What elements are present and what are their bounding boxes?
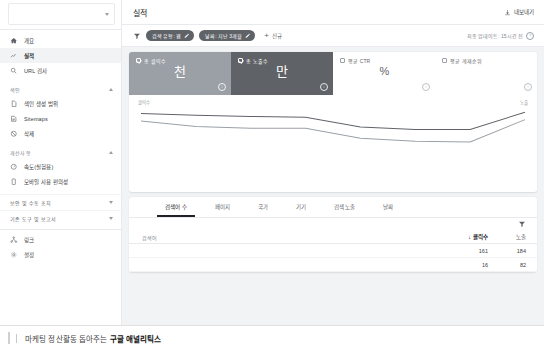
filter-chip-search-type[interactable]: 검색 유형: 웹 xyxy=(146,30,194,41)
metric-header: 총 클릭수 xyxy=(136,57,225,64)
sidebar-item-removals[interactable]: 삭제 xyxy=(0,126,121,141)
filter-funnel-icon[interactable] xyxy=(132,31,141,40)
sidebar-group-legacy-tools[interactable]: 기존 도구 및 보고서 xyxy=(0,210,121,226)
gear-icon xyxy=(10,251,18,259)
checkbox-unchecked-icon[interactable] xyxy=(442,58,447,63)
sidebar-divider xyxy=(0,29,121,30)
chart-y-axis-label-left: 클릭수 xyxy=(138,99,150,105)
metric-card-average-ctr[interactable]: 평균 CTR % i xyxy=(333,52,435,95)
sidebar-item-overview[interactable]: 개요 xyxy=(0,33,121,48)
filter-bar: 검색 유형: 웹 날짜: 지난 3개월 + 신규 최종 업데이트: 15시간 전… xyxy=(122,25,544,47)
tab-label: 검색어 수 xyxy=(165,203,187,211)
sidebar-item-label: 삭제 xyxy=(24,130,34,138)
add-filter-button[interactable]: + 신규 xyxy=(264,32,282,40)
filter-funnel-icon[interactable] xyxy=(518,220,526,229)
sidebar-item-label: 링크 xyxy=(24,236,34,244)
chevron-down-icon xyxy=(109,201,113,204)
tab-label: 날짜 xyxy=(383,203,393,211)
download-icon xyxy=(504,9,511,16)
main-area: 실적 내보내기 검색 유형: 웹 날짜: 지난 3개월 xyxy=(122,0,544,325)
tab-countries[interactable]: 국가 xyxy=(244,197,282,217)
sidebar-group-label: 기존 도구 및 보고서 xyxy=(10,215,56,222)
cell-clicks: 161 xyxy=(438,248,488,254)
footer-caption-emphasis: 구글 애널리틱스 xyxy=(110,335,162,344)
last-updated: 최종 업데이트: 15시간 전 ? xyxy=(467,32,534,40)
metric-label: 평균 게재순위 xyxy=(450,57,482,64)
tab-label: 국가 xyxy=(258,203,268,211)
info-icon[interactable]: ? xyxy=(526,32,534,40)
tab-queries[interactable]: 검색어 수 xyxy=(151,197,201,217)
sidebar-item-settings[interactable]: 설정 xyxy=(0,247,121,262)
column-header-clicks-label: 클릭수 xyxy=(473,233,488,241)
table-row[interactable]: 16 82 xyxy=(129,258,537,272)
content-scroll: 총 클릭수 천 i 총 노출수 만 i xyxy=(122,47,544,325)
sidebar-group-label: 색인 xyxy=(10,86,20,93)
sidebar-item-mobile-usability[interactable]: 모바일 사용 편의성 xyxy=(0,174,121,189)
cell-impressions: 184 xyxy=(488,248,526,254)
metric-card-total-clicks[interactable]: 총 클릭수 천 i xyxy=(129,52,231,95)
property-selector[interactable] xyxy=(8,3,115,25)
add-filter-label: 신규 xyxy=(272,32,282,40)
page-title: 실적 xyxy=(133,7,147,18)
column-header-query[interactable]: 검색어 xyxy=(142,234,438,241)
sidebar-group-index[interactable]: 색인 xyxy=(0,82,121,96)
sidebar-group-security[interactable]: 보안 및 수동 조치 xyxy=(0,194,121,210)
column-header-clicks[interactable]: ↓ 클릭수 xyxy=(438,233,488,241)
page-coverage-icon xyxy=(10,100,18,108)
cell-impressions: 82 xyxy=(488,262,526,268)
sidebar-group-enhancements[interactable]: 개선사항 xyxy=(0,145,121,159)
cell-clicks: 16 xyxy=(438,262,488,268)
mobile-device-icon xyxy=(10,178,18,186)
sidebar-item-url-inspection[interactable]: URL 검사 xyxy=(0,63,121,78)
info-icon[interactable]: i xyxy=(218,83,226,91)
metric-header: 총 노출수 xyxy=(238,57,327,64)
sidebar-group-label: 개선사항 xyxy=(10,149,31,156)
metric-header: 평균 게재순위 xyxy=(442,57,531,64)
info-icon[interactable]: i xyxy=(320,83,328,91)
chevron-up-icon xyxy=(109,88,113,91)
sidebar-group-label: 보안 및 수동 조치 xyxy=(10,199,51,206)
info-icon[interactable]: i xyxy=(524,83,532,91)
tab-label: 기기 xyxy=(296,203,306,211)
checkbox-unchecked-icon[interactable] xyxy=(340,58,345,63)
column-header-impressions[interactable]: 노출 xyxy=(488,233,526,241)
dimension-table-card: 검색어 수 페이지 국가 기기 검색 노출 날짜 검색어 ↓ 클 xyxy=(129,197,537,272)
sidebar-item-coverage[interactable]: 색인 생성 범위 xyxy=(0,96,121,111)
tab-label: 페이지 xyxy=(215,203,230,211)
pencil-icon xyxy=(245,33,251,39)
tab-search-appearance[interactable]: 검색 노출 xyxy=(320,197,370,217)
chevron-up-icon xyxy=(109,151,113,154)
removal-icon xyxy=(10,130,18,138)
metric-card-average-position[interactable]: 평균 게재순위 i xyxy=(435,52,537,95)
sidebar-item-links[interactable]: 링크 xyxy=(0,232,121,247)
metric-value: % xyxy=(340,65,429,78)
pencil-icon xyxy=(184,33,190,39)
footer-caption-prefix: 마케팅 정산활동 돕아주는 xyxy=(25,335,110,344)
performance-card: 총 클릭수 천 i 총 노출수 만 i xyxy=(129,52,537,192)
info-icon[interactable]: i xyxy=(422,83,430,91)
sidebar: 개요 실적 URL 검사 색인 색인 생성 범위 xyxy=(0,0,122,325)
filter-chip-date-range[interactable]: 날짜: 지난 3개월 xyxy=(199,30,255,41)
sidebar-item-sitemaps[interactable]: Sitemaps xyxy=(0,111,121,126)
last-updated-text: 최종 업데이트: 15시간 전 xyxy=(467,32,523,39)
app-root: 개요 실적 URL 검사 색인 색인 생성 범위 xyxy=(0,0,544,350)
chevron-down-icon xyxy=(109,217,113,220)
sidebar-item-performance[interactable]: 실적 xyxy=(0,48,121,63)
sidebar-item-label: 개요 xyxy=(24,37,34,45)
metric-value: 만 xyxy=(238,65,327,80)
checkbox-checked-icon[interactable] xyxy=(238,58,243,63)
filter-chip-label: 검색 유형: 웹 xyxy=(152,32,181,39)
sort-descending-arrow: ↓ xyxy=(468,234,471,240)
chevron-down-icon xyxy=(105,13,109,16)
checkbox-checked-icon[interactable] xyxy=(136,58,141,63)
tab-pages[interactable]: 페이지 xyxy=(201,197,244,217)
tab-dates[interactable]: 날짜 xyxy=(369,197,407,217)
metric-card-total-impressions[interactable]: 총 노출수 만 i xyxy=(231,52,333,95)
tab-devices[interactable]: 기기 xyxy=(282,197,320,217)
table-row[interactable]: 161 184 xyxy=(129,244,537,258)
sidebar-item-speed[interactable]: 속도(실험용) xyxy=(0,159,121,174)
links-icon xyxy=(10,236,18,244)
sitemap-icon xyxy=(10,115,18,123)
export-button[interactable]: 내보내기 xyxy=(504,8,534,16)
sidebar-item-label: 속도(실험용) xyxy=(24,163,53,171)
